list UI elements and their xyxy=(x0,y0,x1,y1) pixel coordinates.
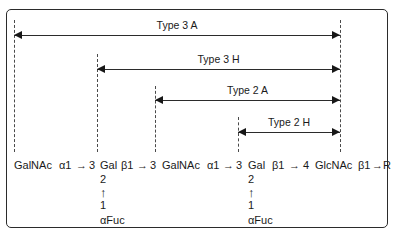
type-3-a-label: Type 3 A xyxy=(157,19,198,31)
residue-gal-1: Gal xyxy=(100,158,117,172)
type-3-a-arrowhead-right-icon xyxy=(332,31,340,39)
fucose-branch-2-lower-position: 1 xyxy=(248,199,273,212)
fucose-branch-1-bond-up-arrow-icon: ↑ xyxy=(100,186,125,199)
fucose-branch-1: 2↑1αFuc xyxy=(100,173,125,228)
residue-gal-2: Gal xyxy=(248,158,265,172)
fucose-branch-1-lower-position: 1 xyxy=(100,199,125,212)
arrow-2: → xyxy=(137,158,148,172)
linkage-alpha1-1: α1 xyxy=(59,158,71,172)
fucose-branch-2: 2↑1αFuc xyxy=(248,173,273,228)
type-3-h-label: Type 3 H xyxy=(197,53,239,65)
type-2-h-arrowhead-left-icon xyxy=(238,128,246,136)
type-3-a-arrowhead-left-icon xyxy=(14,31,22,39)
position-3-3: 3 xyxy=(236,158,242,172)
type-3-h-span-arrow xyxy=(97,69,340,70)
arrow-3: → xyxy=(223,158,234,172)
type-2-a-arrowhead-right-icon xyxy=(332,96,340,104)
guide-galnac-1-dashed-line xyxy=(14,20,15,152)
fucose-branch-1-residue-label: αFuc xyxy=(100,212,125,228)
type-2-a-span-arrow xyxy=(155,100,340,101)
position-4: 4 xyxy=(303,158,309,172)
guide-terminus-dashed-line xyxy=(340,20,341,152)
arrow-5: → xyxy=(372,158,383,172)
type-2-h-arrowhead-right-icon xyxy=(332,128,340,136)
residue-galnac-2: GalNAc xyxy=(162,158,200,172)
type-2-h-arrow-shaft xyxy=(238,132,340,133)
type-2-h-span-arrow xyxy=(238,132,340,133)
arrow-1: → xyxy=(76,158,87,172)
type-2-a-label: Type 2 A xyxy=(227,84,268,96)
residue-r: R xyxy=(383,158,391,172)
arrow-4: → xyxy=(289,158,300,172)
residue-glcnac: GlcNAc xyxy=(315,158,352,172)
linkage-beta1-1: β1 xyxy=(121,158,133,172)
position-3-2: 3 xyxy=(150,158,156,172)
linkage-beta1-3: β1 xyxy=(358,158,370,172)
type-2-a-arrowhead-left-icon xyxy=(155,96,163,104)
glycan-structure-figure: Type 3 AType 3 HType 2 AType 2 H GalNAcα… xyxy=(0,0,399,252)
type-3-a-span-arrow xyxy=(14,35,340,36)
type-2-a-arrow-shaft xyxy=(155,100,340,101)
position-3-1: 3 xyxy=(89,158,95,172)
type-3-a-arrow-shaft xyxy=(14,35,340,36)
fucose-branch-2-residue-label: αFuc xyxy=(248,212,273,228)
type-3-h-arrow-shaft xyxy=(97,69,340,70)
type-2-h-label: Type 2 H xyxy=(268,116,310,128)
type-3-h-arrowhead-left-icon xyxy=(97,65,105,73)
figure-border xyxy=(6,9,388,228)
residue-galnac-1: GalNAc xyxy=(14,158,52,172)
type-3-h-arrowhead-right-icon xyxy=(332,65,340,73)
linkage-alpha1-2: α1 xyxy=(207,158,219,172)
linkage-beta1-2: β1 xyxy=(272,158,284,172)
fucose-branch-2-bond-up-arrow-icon: ↑ xyxy=(248,186,273,199)
